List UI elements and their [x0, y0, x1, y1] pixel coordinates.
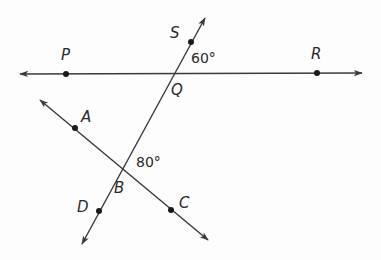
- label-a: A: [81, 110, 91, 125]
- line-ac: [40, 100, 208, 240]
- point-s-dot: [188, 39, 194, 45]
- angle-label-qbc: 80°: [136, 155, 161, 169]
- label-d: D: [77, 200, 89, 215]
- geometry-diagram: P R S Q A B C D 60° 80°: [0, 0, 381, 260]
- label-q: Q: [171, 83, 183, 98]
- label-s: S: [170, 26, 180, 41]
- diagram-canvas: [0, 0, 381, 260]
- angle-label-sqr: 60°: [191, 51, 216, 65]
- point-p-dot: [63, 71, 69, 77]
- point-r-dot: [314, 70, 320, 76]
- point-d-dot: [96, 208, 102, 214]
- point-a-dot: [72, 125, 78, 131]
- label-r: R: [311, 47, 321, 62]
- label-c: C: [179, 196, 189, 211]
- label-b: B: [114, 181, 124, 196]
- point-c-dot: [168, 207, 174, 213]
- label-p: P: [61, 48, 70, 63]
- line-pr: [20, 73, 362, 74]
